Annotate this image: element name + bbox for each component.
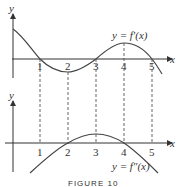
bottom-graph-f-double-prime: y x y = f″(x) 1 2 3 4 5	[5, 89, 175, 173]
derivative-graphs: y x y = f′(x) 1 2 3 4 5 y x y = f″(x) 1 …	[0, 0, 177, 187]
bottom-x-axis-label: x	[169, 137, 175, 149]
top-graph-f-prime: y x y = f′(x) 1 2 3 4 5	[8, 2, 175, 78]
top-curve-label: y = f′(x)	[111, 29, 148, 42]
top-x-axis-label: x	[169, 53, 175, 65]
bottom-tick-4: 4	[121, 146, 127, 158]
top-tick-2: 2	[65, 60, 71, 72]
bottom-curve-label: y = f″(x)	[111, 160, 150, 173]
top-y-axis-label: y	[8, 2, 14, 14]
figure-caption: FIGURE 10	[68, 179, 118, 187]
bottom-tick-2: 2	[65, 146, 71, 158]
bottom-y-axis-label: y	[8, 89, 14, 101]
dashed-guide-lines	[40, 43, 152, 144]
bottom-tick-3: 3	[93, 146, 99, 158]
bottom-tick-5: 5	[149, 146, 155, 158]
bottom-tick-1: 1	[37, 146, 43, 158]
